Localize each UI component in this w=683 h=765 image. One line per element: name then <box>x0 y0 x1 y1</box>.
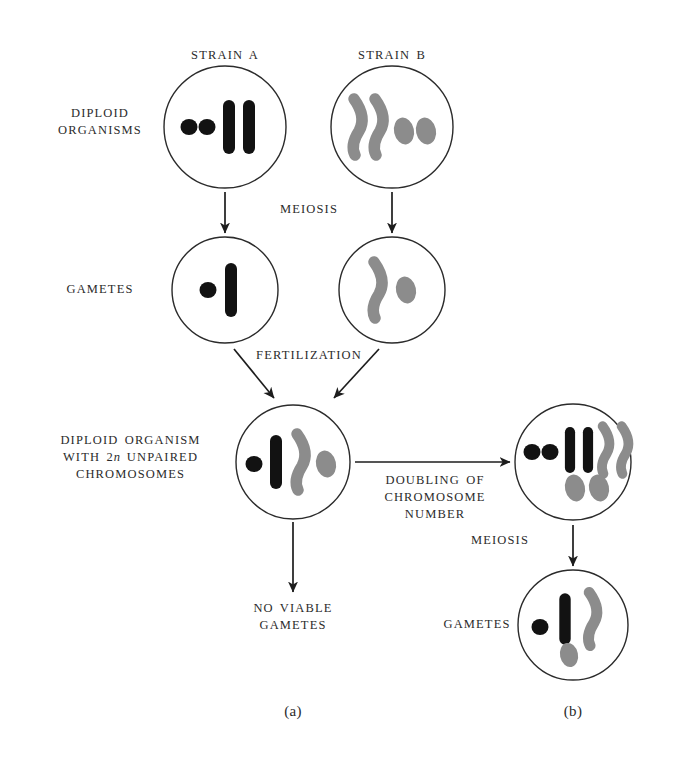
fertile-gamete-cell-dot-0 <box>532 619 549 635</box>
chromosome-rod-2 <box>223 100 235 154</box>
chromosome-dot-1 <box>199 119 216 135</box>
label-strain-a: STRAIN A <box>165 47 285 64</box>
amphidiploid-cell-rod-2 <box>565 427 575 473</box>
label-strain-b: STRAIN B <box>332 47 452 64</box>
chromosome-rod-1 <box>270 435 282 489</box>
chromosome-rod-3 <box>243 100 255 154</box>
chromosome-rod-1 <box>225 263 237 317</box>
chromosome-dot-1 <box>542 444 559 460</box>
chromosome-dot-0 <box>200 282 217 298</box>
strain-a-gamete-cell-rod-1 <box>225 263 237 317</box>
amphidiploid-cell-dot-1 <box>542 444 559 460</box>
hybrid-label-line-1: DIPLOID ORGANISM <box>60 433 200 447</box>
hybrid-label-line-2-prefix: WITH 2 <box>63 450 114 464</box>
amphidiploid-cell <box>515 404 631 520</box>
allopolyploidy-figure: STRAIN A STRAIN B DIPLOID ORGANISMS GAME… <box>0 0 683 765</box>
hybrid-label-line-2-suffix: UNPAIRED <box>121 450 199 464</box>
strain-a-diploid-cell <box>164 66 286 188</box>
strain-a-diploid-cell-rod-3 <box>243 100 255 154</box>
label-meiosis-top: MEIOSIS <box>249 201 369 218</box>
strain-a-gamete-cell-dot-0 <box>200 282 217 298</box>
label-hybrid-organism: DIPLOID ORGANISM WITH 2n UNPAIRED CHROMO… <box>28 432 233 483</box>
strain-a-gamete-cell <box>172 237 278 343</box>
label-gametes-left: GAMETES <box>40 281 160 298</box>
hybrid-label-italic-n: n <box>114 450 121 464</box>
strain-b-gamete-cell-membrane <box>339 237 445 343</box>
chromosome-dot-0 <box>246 456 263 472</box>
caption-b: (b) <box>533 703 613 720</box>
amphidiploid-cell-rod-3 <box>583 427 593 473</box>
label-gametes-right: GAMETES <box>432 616 522 633</box>
chromosome-rod-1 <box>559 593 570 644</box>
sterile-hybrid-cell-rod-1 <box>270 435 282 489</box>
caption-a: (a) <box>253 703 333 720</box>
strain-a-diploid-cell-dot-0 <box>181 119 198 135</box>
label-fertilization: FERTILIZATION <box>229 347 389 364</box>
fertile-gamete-cell <box>518 570 628 680</box>
chromosome-rod-2 <box>565 427 575 473</box>
label-diploid-organisms: DIPLOID ORGANISMS <box>40 105 160 139</box>
label-no-viable-gametes: NO VIABLE GAMETES <box>233 600 353 634</box>
cells-layer <box>164 66 631 680</box>
chromosome-dot-0 <box>524 444 541 460</box>
strain-b-diploid-cell <box>331 66 453 188</box>
amphidiploid-cell-dot-0 <box>524 444 541 460</box>
chromosome-dot-0 <box>181 119 198 135</box>
strain-a-diploid-cell-dot-1 <box>199 119 216 135</box>
fertile-gamete-cell-rod-1 <box>559 593 570 644</box>
sterile-hybrid-cell <box>236 405 350 519</box>
sterile-hybrid-cell-dot-0 <box>246 456 263 472</box>
label-doubling-of-chromosome-number: DOUBLING OF CHROMOSOME NUMBER <box>360 472 510 523</box>
strain-b-gamete-cell <box>339 237 445 343</box>
chromosome-rod-3 <box>583 427 593 473</box>
chromosome-dot-0 <box>532 619 549 635</box>
strain-a-diploid-cell-rod-2 <box>223 100 235 154</box>
hybrid-label-line-3: CHROMOSOMES <box>76 467 185 481</box>
label-meiosis-right: MEIOSIS <box>455 532 545 549</box>
